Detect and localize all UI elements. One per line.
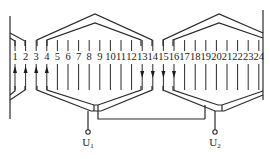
slot-number: 8 [87, 51, 92, 62]
slot-number: 13 [137, 51, 148, 62]
arrow-up-icon [34, 66, 38, 73]
slot-number: 16 [169, 51, 180, 62]
terminal-u1[interactable]: U1 [82, 130, 94, 150]
terminal-u1-label: U1 [82, 136, 94, 150]
slot-number: 7 [76, 51, 81, 62]
slot-number: 11 [116, 51, 126, 62]
slot-number: 10 [105, 51, 116, 62]
left-edge-coil [10, 16, 25, 119]
slot-number: 22 [232, 51, 243, 62]
slot-number: 19 [201, 51, 212, 62]
slot-number: 6 [65, 51, 70, 62]
arrow-down-icon [151, 71, 155, 78]
left-edge-bottom-inner [10, 86, 15, 95]
arrow-down-icon [140, 71, 144, 78]
terminal-u2[interactable]: U2 [209, 130, 221, 150]
slot-number: 20 [211, 51, 222, 62]
left-inner-bottom [47, 86, 141, 105]
slot-number: 2 [23, 51, 28, 62]
slot-number: 12 [126, 51, 137, 62]
slot-numbers: 123456789101112131415161718192021222324 [12, 51, 264, 62]
slot-lines [15, 40, 259, 90]
slot-number: 18 [190, 51, 201, 62]
winding-diagram: 123456789101112131415161718192021222324 … [0, 0, 270, 159]
left-outer-top [37, 14, 152, 46]
slot-number: 5 [55, 51, 60, 62]
arrow-down-icon [161, 71, 165, 78]
slot-number: 17 [179, 51, 190, 62]
right-inner-bottom [173, 86, 263, 105]
slot-number: 9 [97, 51, 102, 62]
slot-number: 15 [158, 51, 169, 62]
slot-number: 23 [243, 51, 254, 62]
left-inner-top [47, 23, 141, 46]
terminal-u2-node[interactable] [213, 130, 217, 134]
terminal-u2-label: U2 [209, 136, 221, 150]
left-edge-inner-end [10, 38, 15, 46]
right-junction [205, 105, 222, 119]
slot-number: 3 [34, 51, 39, 62]
right-inner-top [173, 23, 263, 46]
arrow-up-icon [45, 66, 49, 73]
arrow-down-icon [172, 71, 176, 78]
terminal-u1-node[interactable] [86, 130, 90, 134]
slot-number: 1 [12, 51, 17, 62]
slot-number: 4 [44, 51, 50, 62]
arrow-up-icon [13, 66, 17, 73]
arrow-up-icon [24, 66, 28, 73]
slot-number: 21 [222, 51, 233, 62]
current-arrows [13, 66, 176, 78]
slot-number: 14 [148, 51, 159, 62]
